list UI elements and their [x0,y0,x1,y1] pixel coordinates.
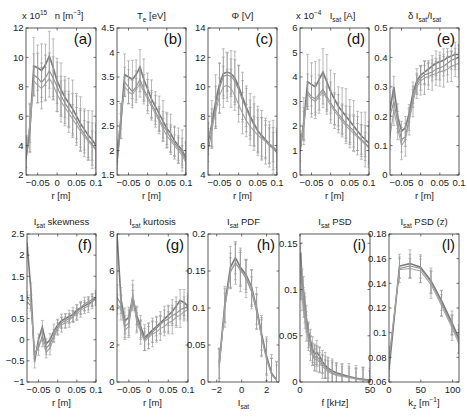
y-tick-label: 4 [109,302,114,313]
x-tick-label: 0 [328,177,333,188]
y-tick-label: 1 [292,145,297,156]
x-axis-label: r [m] [142,190,161,201]
x-axis-label: r [m] [325,190,344,201]
y-tick-label: 6 [200,140,205,151]
axis-multiplier: x 10−4 [296,9,322,21]
x-tick-label: 0.05 [68,384,87,395]
y-tick-label: 8 [109,228,114,239]
y-tick-label: 1 [19,292,24,303]
x-axis-label: r [m] [52,397,71,408]
y-tick-label: 0.08 [368,352,387,363]
x-tick-label: 0.05 [249,177,268,188]
series-group [218,241,278,399]
y-tick-label: 0.16 [368,253,387,264]
x-tick-label: 100 [445,384,461,395]
panel-a: 24681012−0.0500.050.1(a)n [m−3]x 1015r [… [13,9,103,201]
x-tick-label: −0.05 [207,177,231,188]
x-tick-label: 50 [416,384,427,395]
x-axis-label: f [kHz] [322,397,349,408]
y-tick-label: 4 [18,140,23,151]
panel-title: δ Isat/Isat [408,10,441,23]
panel-b: 1.522.533.544.5−0.0500.050.1(b)Te [eV]r … [101,10,192,201]
axes-box [117,234,188,382]
y-tick-label: 0.12 [368,302,387,313]
y-tick-label: 0.1 [284,284,297,295]
y-tick-label: 2 [109,339,114,350]
axis-multiplier: x 1015 [22,9,48,21]
y-tick-label: 2 [109,145,114,156]
y-tick-label: 0 [109,376,114,387]
x-axis-label: r [m] [143,397,162,408]
x-tick-label: 0.1 [179,177,192,188]
x-tick-label: 0.1 [362,177,375,188]
panel-title: Isat [A] [330,10,356,23]
x-tick-label: 0.1 [89,384,102,395]
series-group [116,50,188,182]
series-group [389,42,461,160]
panel-title: Isat PSD (z) [400,216,447,229]
y-tick-label: 4.5 [101,22,114,33]
panel-h: 00.050.10.150.2−202(h)Isat PDFIsat [187,216,279,410]
x-tick-label: 0 [418,177,423,188]
panel-title: Isat PDF [227,216,260,229]
y-tick-label: 2 [18,169,23,180]
x-axis-label: r [m] [233,190,252,201]
x-tick-label: −0.05 [117,384,141,395]
y-tick-label: 2 [19,249,24,260]
x-tick-label: 0 [297,384,302,395]
x-tick-label: −0.05 [116,177,140,188]
axes-box [390,28,459,175]
y-tick-label: 4 [292,71,297,82]
panel-letter: (f) [78,236,92,253]
y-tick-label: 8 [18,81,23,92]
x-tick-label: 0 [239,384,244,395]
panel-letter: (b) [164,30,182,47]
x-tick-label: 0.1 [181,384,194,395]
y-tick-label: −0.5 [6,355,25,366]
panel-title: Isat PSD [318,216,352,229]
y-tick-label: 0.06 [368,376,387,387]
y-tick-label: 0.05 [279,330,298,341]
y-tick-label: 0 [200,376,205,387]
y-tick-label: 14 [195,22,206,33]
x-axis-label: r [m] [415,190,434,201]
panel-g: 02468−0.0500.050.1(g)Isat kurtosisr [m] [109,216,194,408]
series-group [388,250,461,380]
panel-title: Te [eV] [137,10,166,23]
y-tick-label: 0.15 [187,265,206,276]
series-line [301,290,370,382]
y-tick-label: 0.4 [374,52,387,63]
panel-letter: (h) [257,236,275,253]
y-tick-label: 1.5 [101,169,114,180]
y-tick-label: 6 [109,265,114,276]
series-group [25,31,98,183]
y-tick-label: 0.05 [187,339,206,350]
series-group [299,49,371,172]
x-tick-label: −2 [211,384,222,395]
panel-title: Isat skewness [34,216,90,229]
panel-title: n [m−3] [55,9,84,21]
x-tick-label: 0.1 [270,177,283,188]
y-tick-label: 0 [382,169,387,180]
y-tick-label: 3.5 [101,71,114,82]
y-tick-label: 0.5 [11,313,24,324]
series-group [26,237,98,368]
x-tick-label: 0 [54,177,59,188]
series-line [27,242,96,360]
y-tick-label: 3 [109,96,114,107]
y-tick-label: 3 [292,96,297,107]
y-tick-label: 12 [195,52,206,63]
panel-e: 00.10.20.30.40.5−0.0500.050.1(e)δ Isat/I… [374,10,465,201]
x-axis-label: Isat [238,397,250,410]
y-tick-label: −1 [14,376,25,387]
panel-letter: (d) [347,30,365,47]
y-tick-label: 5 [292,47,297,58]
y-tick-label: 0.2 [192,228,205,239]
series-group [207,49,279,178]
x-tick-label: 0.05 [341,177,360,188]
y-tick-label: 1.5 [11,271,24,282]
panel-f: −1−0.500.511.522.5−0.0500.050.1(f)Isat s… [6,216,103,408]
y-tick-label: 0.3 [374,81,387,92]
x-tick-label: −0.05 [299,177,323,188]
x-axis-label: kz [m−1] [408,396,439,410]
